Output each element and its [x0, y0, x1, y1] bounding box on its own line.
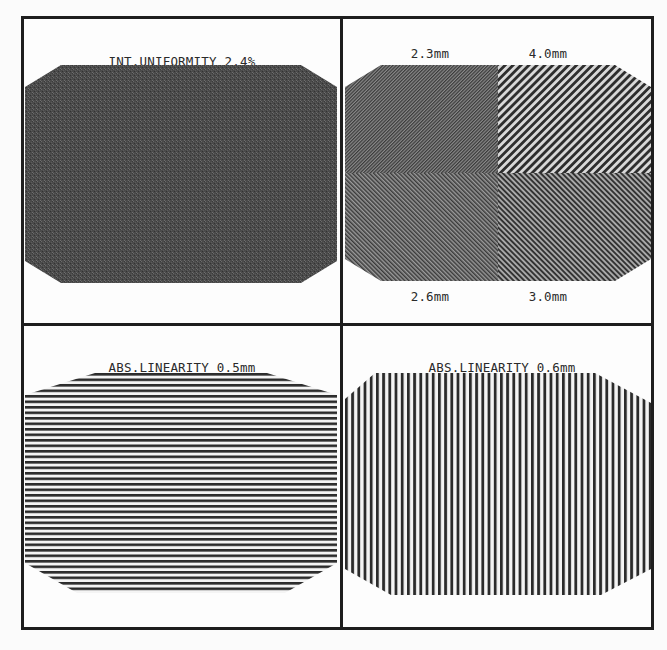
vertical-bar-image: [345, 373, 651, 595]
bar-label-top-left: 2.3mm: [400, 48, 460, 60]
bar-phantom-image: [345, 65, 651, 281]
bar-label-top-right: 4.0mm: [518, 48, 578, 60]
bar-label-bottom-left: 2.6mm: [400, 291, 460, 303]
gamma-camera-qc-frame: INT.UNIFORMITY 2.4% DIF.UNIFORMITY 1.7% …: [21, 16, 654, 630]
horizontal-divider: [24, 323, 651, 326]
horizontal-bar-image: [25, 373, 337, 593]
flood-field-image: [25, 65, 337, 283]
bar-label-bottom-right: 3.0mm: [518, 291, 578, 303]
